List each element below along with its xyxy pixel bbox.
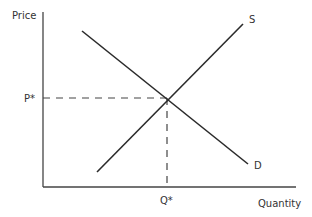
x-axis-label: Quantity	[258, 198, 301, 209]
supply-demand-diagram: Price Quantity P* Q* S D	[0, 0, 312, 217]
price-equilibrium-label: P*	[24, 93, 35, 104]
supply-curve-label: S	[249, 14, 255, 25]
demand-curve-label: D	[254, 160, 262, 171]
demand-curve	[82, 31, 248, 164]
y-axis-label: Price	[12, 10, 36, 21]
supply-curve	[97, 24, 243, 172]
quantity-equilibrium-label: Q*	[160, 195, 173, 206]
